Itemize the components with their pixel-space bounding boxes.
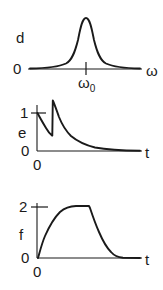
- panel-f-plot: 2 f 0 0 t: [0, 185, 163, 290]
- panel-f-function-label: f: [19, 226, 24, 243]
- panel-f: 2 f 0 0 t: [0, 185, 163, 290]
- physics-figure: d 0 ω ω0 1 e 0 0 t: [0, 0, 163, 290]
- panel-e-x-origin-label: 0: [33, 156, 41, 173]
- panel-f-x-origin-label: 0: [33, 263, 41, 280]
- panel-d-x-axis-label: ω: [146, 62, 158, 79]
- panel-e: 1 e 0 0 t: [0, 90, 163, 185]
- panel-f-x-axis-label: t: [145, 251, 150, 268]
- panel-f-y-origin-label: 0: [21, 249, 29, 266]
- panel-e-function-label: e: [18, 124, 26, 141]
- panel-d-curve: [30, 18, 140, 69]
- panel-d-plot: d 0 ω ω0: [0, 0, 163, 95]
- panel-f-two-label: 2: [19, 198, 27, 215]
- panel-e-x-axis-label: t: [145, 144, 150, 161]
- panel-d-function-label: d: [16, 29, 24, 46]
- panel-d: d 0 ω ω0: [0, 0, 163, 95]
- panel-f-curve: [38, 206, 140, 258]
- panel-e-curve: [38, 101, 141, 151]
- panel-d-origin-label: 0: [13, 60, 21, 77]
- panel-e-one-label: 1: [20, 104, 28, 121]
- panel-e-y-origin-label: 0: [21, 142, 29, 159]
- panel-e-plot: 1 e 0 0 t: [0, 90, 163, 185]
